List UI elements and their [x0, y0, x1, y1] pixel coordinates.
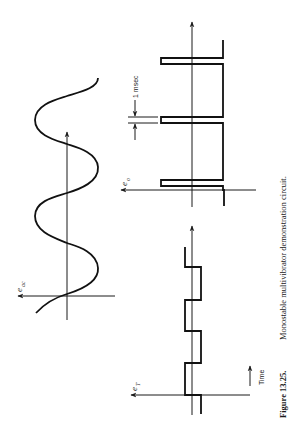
trigger-label-main: e: [129, 387, 139, 391]
output-panel: 1 msec e o: [119, 22, 256, 207]
sine-label-sub: ac: [20, 281, 26, 287]
trigger-label-sub: T: [135, 382, 141, 386]
trigger-panel: e T: [129, 226, 250, 415]
output-label-main: e: [119, 182, 129, 186]
figure-canvas: e ac 1 msec e o e T Time Figure 1: [0, 0, 303, 440]
output-label: e o: [119, 178, 131, 186]
sine-label: e ac: [14, 281, 26, 292]
time-indicator: Time: [250, 366, 265, 386]
figure-caption-text: Monostable multivibrator demonstration c…: [278, 176, 288, 340]
figure-caption: Figure 13.25. Monostable multivibrator d…: [278, 176, 288, 418]
pulse-width-label: 1 msec: [132, 75, 139, 98]
trigger-label: e T: [129, 382, 141, 391]
sine-label-main: e: [14, 288, 24, 292]
output-label-sub: o: [125, 178, 131, 181]
figure-number: Figure 13.25.: [278, 371, 288, 418]
trigger-square-wave: [185, 247, 201, 414]
sine-panel: e ac: [14, 78, 115, 320]
time-label: Time: [258, 370, 265, 385]
